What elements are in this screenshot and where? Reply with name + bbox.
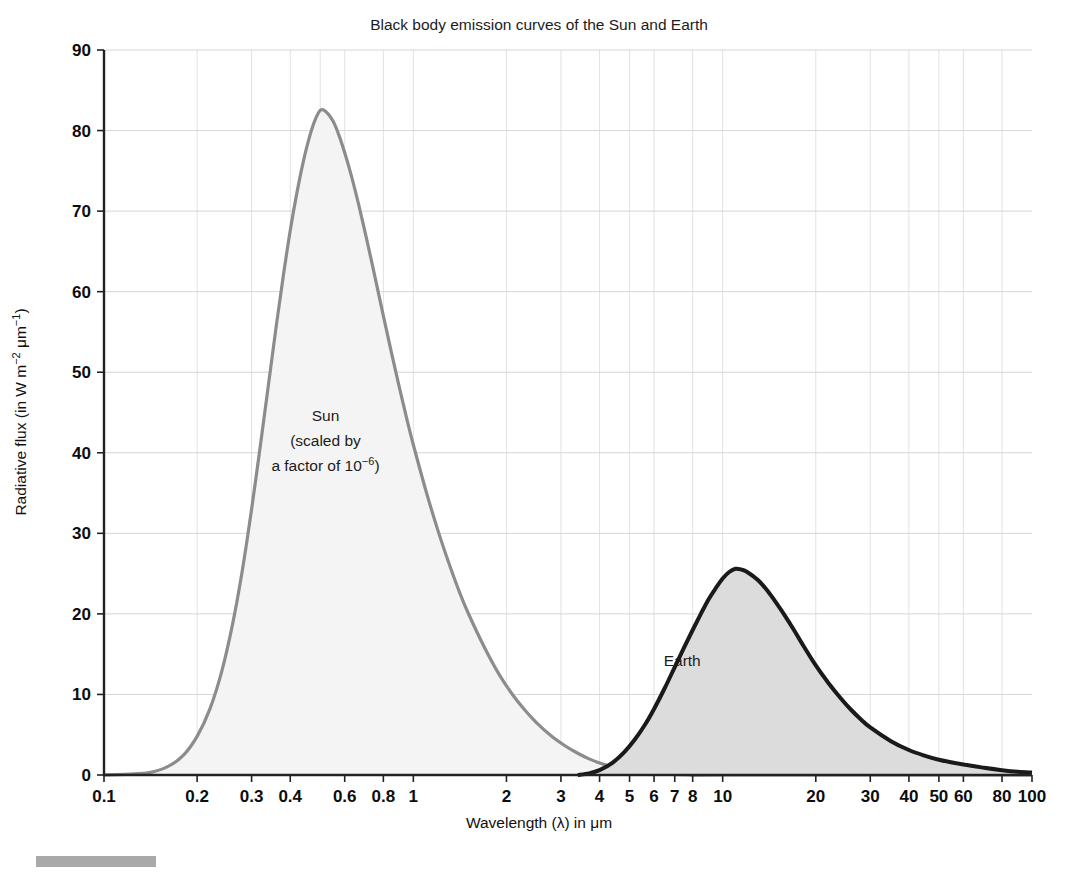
y-tick-label: 40 [72, 444, 91, 463]
y-tick-label: 0 [82, 766, 91, 785]
x-tick-label: 30 [861, 787, 880, 806]
x-tick-label: 100 [1018, 787, 1046, 806]
figure-container: 01020304050607080900.10.20.30.40.60.8123… [0, 0, 1078, 874]
x-tick-label: 0.3 [240, 787, 264, 806]
series-fill-sun [104, 110, 1032, 776]
y-axis-title-exponent-2: −1 [10, 314, 22, 327]
y-tick-label: 10 [72, 685, 91, 704]
y-axis-title: Radiative flux (in W m−2 μm−1) [10, 308, 29, 515]
x-tick-label: 20 [806, 787, 825, 806]
y-axis-title-mid: μm [12, 326, 29, 352]
y-tick-label: 50 [72, 363, 91, 382]
x-tick-label: 40 [899, 787, 918, 806]
x-tick-label: 4 [595, 787, 605, 806]
y-axis-title-exponent-1: −2 [10, 352, 22, 365]
annotation-tail: ) [374, 457, 379, 474]
x-tick-label: 0.8 [372, 787, 396, 806]
x-axis-title: Wavelength (λ) in μm [466, 814, 612, 831]
x-tick-label: 0.2 [185, 787, 209, 806]
x-tick-label: 60 [954, 787, 973, 806]
series-annotation-earth: Earth [664, 652, 701, 669]
x-tick-label: 50 [929, 787, 948, 806]
y-tick-label: 20 [72, 605, 91, 624]
annotation-exponent: −6 [362, 455, 375, 467]
x-tick-label: 80 [993, 787, 1012, 806]
chart-title: Black body emission curves of the Sun an… [370, 16, 708, 33]
y-tick-label: 30 [72, 524, 91, 543]
page-scan-artifact [36, 856, 156, 867]
x-tick-label: 7 [670, 787, 679, 806]
x-tick-label: 10 [713, 787, 732, 806]
y-tick-label: 90 [72, 41, 91, 60]
series-annotation-sun: Sun [312, 407, 340, 424]
x-tick-label: 5 [625, 787, 634, 806]
x-tick-label: 6 [649, 787, 658, 806]
x-tick-label: 0.6 [333, 787, 357, 806]
y-axis-title-main: Radiative flux (in W m [12, 365, 29, 516]
x-tick-label: 3 [556, 787, 565, 806]
x-tick-label: 2 [502, 787, 511, 806]
y-tick-label: 80 [72, 122, 91, 141]
svg-text:Radiative flux (in W m−2 μm−1): Radiative flux (in W m−2 μm−1) [10, 308, 29, 515]
series-annotation-sun: (scaled by [290, 432, 361, 449]
y-tick-label: 60 [72, 283, 91, 302]
y-tick-label: 70 [72, 202, 91, 221]
black-body-emission-chart: 01020304050607080900.10.20.30.40.60.8123… [0, 0, 1078, 874]
series-layer [104, 110, 1032, 776]
x-tick-label: 0.4 [278, 787, 302, 806]
x-tick-label: 0.1 [92, 787, 116, 806]
x-tick-label: 1 [409, 787, 418, 806]
x-tick-label: 8 [688, 787, 697, 806]
y-axis-title-tail: ) [12, 308, 29, 313]
